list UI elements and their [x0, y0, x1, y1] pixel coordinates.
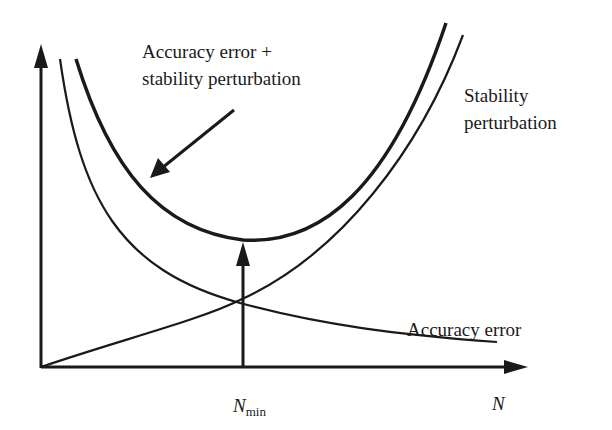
label-nmin-sub: min [246, 404, 266, 419]
label-x-axis: N [492, 392, 505, 415]
label-stability-line1: Stability [464, 84, 557, 107]
label-nmin: Nmin [233, 394, 266, 423]
x-axis [41, 360, 528, 374]
label-total-line2: stability perturbation [142, 67, 301, 90]
label-stability-line2: perturbation [464, 111, 557, 134]
label-accuracy: Accuracy error [407, 318, 521, 341]
accuracy-error-curve [60, 59, 497, 342]
label-nmin-main: N [233, 395, 246, 416]
label-stability: Stability perturbation [464, 84, 557, 134]
label-total-line1: Accuracy error + [142, 40, 301, 63]
label-total: Accuracy error + stability perturbation [142, 40, 301, 90]
y-axis [34, 44, 48, 368]
diagram-canvas [0, 0, 612, 430]
pointer-arrow [150, 110, 234, 178]
